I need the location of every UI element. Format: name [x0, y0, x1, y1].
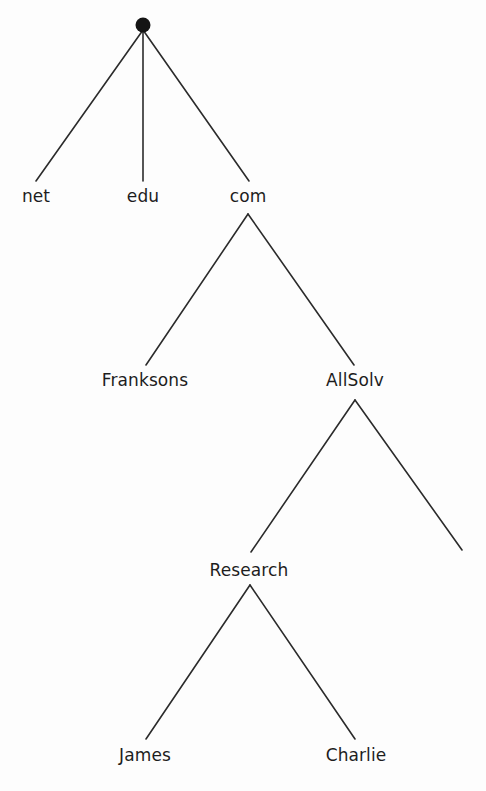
- edge-research-james: [146, 585, 250, 739]
- node-label-net: net: [22, 188, 50, 205]
- node-label-edu: edu: [127, 188, 159, 205]
- edge-root-net: [36, 30, 143, 181]
- node-label-allsolv: AllSolv: [326, 372, 384, 389]
- root-node-dot: [136, 18, 151, 33]
- edge-com-franksons: [146, 214, 248, 365]
- tree-edges-layer: [0, 0, 486, 791]
- node-label-charlie: Charlie: [326, 747, 387, 764]
- edge-com-allsolv: [248, 214, 354, 365]
- edge-research-charlie: [250, 585, 355, 739]
- node-label-james: James: [119, 747, 171, 764]
- dns-tree-diagram: net edu com Franksons AllSolv Research J…: [0, 0, 486, 791]
- node-label-franksons: Franksons: [102, 372, 188, 389]
- edge-allsolv-unlabeled: [355, 400, 462, 550]
- edge-allsolv-research: [251, 400, 355, 552]
- node-label-com: com: [230, 188, 267, 205]
- node-label-research: Research: [210, 562, 289, 579]
- edge-root-com: [143, 30, 249, 181]
